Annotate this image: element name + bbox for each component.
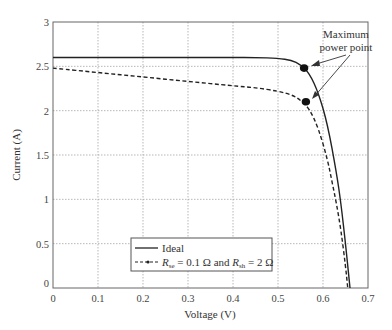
x-tick-label: 0	[50, 293, 55, 304]
y-tick-label: 2	[44, 106, 49, 117]
legend-rse-label: Rse = 0.1 Ω and Rsh = 2 Ω	[161, 256, 273, 270]
iv-curve-chart: 00.10.20.30.40.50.60.700.511.522.53 Volt…	[0, 0, 392, 330]
y-tick-label: 3	[44, 17, 49, 28]
x-axis-label: Voltage (V)	[184, 308, 236, 321]
x-tick-label: 0.7	[361, 293, 374, 304]
annotation-arrows	[311, 55, 350, 99]
y-tick-label: 0.5	[36, 239, 49, 250]
x-tick-label: 0.1	[91, 293, 104, 304]
annotation-line-2: power point	[320, 41, 373, 53]
y-axis-label: Current (A)	[10, 129, 23, 181]
maximum-power-points	[300, 64, 310, 105]
x-tick-label: 0.4	[226, 293, 240, 304]
legend-ideal-label: Ideal	[162, 242, 184, 254]
y-tick-label: 0	[44, 278, 49, 289]
mpp-marker	[300, 64, 308, 72]
x-tick-label: 0.5	[271, 293, 284, 304]
mpp-marker	[302, 98, 310, 106]
annotation-line-1: Maximum	[323, 28, 369, 40]
x-tick-label: 0.2	[136, 293, 149, 304]
legend-marker-icon	[146, 260, 149, 263]
x-tick-label: 0.6	[316, 293, 329, 304]
legend: Ideal Rse = 0.1 Ω and Rsh = 2 Ω	[131, 238, 273, 271]
y-tick-label: 1	[44, 194, 49, 205]
y-tick-label: 1.5	[36, 150, 49, 161]
x-tick-label: 0.3	[181, 293, 194, 304]
y-tick-label: 2.5	[36, 61, 49, 72]
